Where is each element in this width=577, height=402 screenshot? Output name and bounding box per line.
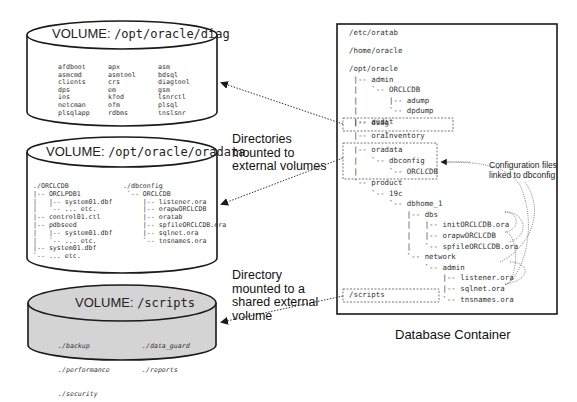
tree-row-orainventory: |-- oraInventory (349, 131, 425, 142)
scripts-item-data-guard: ./data_guard (142, 342, 190, 350)
volume-diag-title-path: /opt/oracle/diag (114, 27, 230, 41)
scripts-item-performance: ./performance (58, 366, 110, 374)
volume-diag-title: VOLUME: /opt/oracle/diag (52, 26, 230, 41)
volume-oradata-title-path: /opt/oracle/oradata (108, 145, 245, 159)
diag-column-3: asmbdsqldiagtoolgsmlsnrctlplsqltnslsnr (158, 64, 208, 117)
volume-diag-title-prefix: VOLUME: (52, 26, 111, 41)
path-etc-oratab: /etc/oratab (349, 28, 398, 39)
path-home-oracle: /home/oracle (349, 46, 402, 57)
tree-product: `-- product `-- 19c `-- dbhome_1 |-- dbs… (349, 178, 518, 305)
label-mounted-external: Directories mounted to external volumes (232, 133, 342, 174)
diag-dir-item: tnslsnr (158, 110, 208, 118)
label-mounted-shared: Directory mounted to a shared external v… (232, 269, 332, 323)
diag-dir-item: rdbms (108, 110, 158, 118)
scripts-item-security: ./security (58, 390, 110, 398)
database-container-caption: Database Container (395, 327, 511, 342)
diag-column-1: afdbootasmcmdclientsdpsiosnetcmanplsqlap… (58, 64, 108, 117)
oradata-dbconfig-tree: ./dbconfig `-- ORCLCDB |-- listener.ora … (123, 183, 226, 245)
volume-scripts-title: VOLUME: /scripts (75, 295, 195, 310)
arrow-diag-mount (222, 83, 343, 124)
oradata-orclcdb-tree: ./ORCLCDB |-- ORCLPDB1 | |-- system01.db… (33, 183, 112, 261)
tree-rows-oradata: |-- oradata | `-- dbconfig | `-- ORCLCDB (349, 144, 438, 177)
diag-dir-item: plsqlapp (58, 110, 108, 118)
tree-row-scripts: /scripts (349, 290, 385, 301)
tree-row-diag: |-- diag (349, 118, 389, 129)
label-config-linked: Configuration files linked to dbconfig (489, 160, 559, 180)
scripts-item-reports: ./reports (142, 366, 190, 374)
diag-column-2: apxasmtoolcrsemkfodofmrdbms (108, 64, 158, 117)
scripts-left-items: ./backup ./performance ./security (58, 326, 110, 402)
volume-oradata-title-prefix: VOLUME: (46, 144, 105, 159)
volume-diag-contents: afdbootasmcmdclientsdpsiosnetcmanplsqlap… (58, 64, 208, 117)
scripts-item-backup: ./backup (58, 342, 110, 350)
volume-scripts-title-path: /scripts (137, 296, 195, 310)
volume-scripts-title-prefix: VOLUME: (75, 295, 134, 310)
volume-oradata-title: VOLUME: /opt/oracle/oradata (46, 144, 245, 159)
scripts-right-items: ./data_guard ./reports (142, 326, 190, 382)
